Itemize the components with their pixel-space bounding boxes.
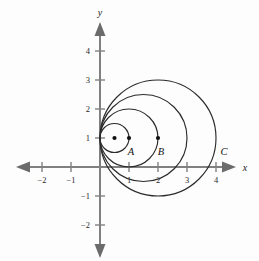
x-tick-label--1: −1 bbox=[66, 175, 75, 185]
point-B bbox=[156, 136, 160, 140]
x-tick-label-4: 4 bbox=[214, 175, 219, 185]
y-tick-labels: 4 3 2 1 −1 −2 bbox=[81, 46, 91, 230]
axes-group bbox=[16, 22, 236, 258]
point-A bbox=[127, 136, 131, 140]
circles-diagram-svg: −2 −1 1 2 3 4 4 3 2 1 −1 −2 x y bbox=[0, 0, 259, 261]
x-tick-labels: −2 −1 1 2 3 4 bbox=[37, 175, 218, 185]
y-axis-arrow-up bbox=[95, 22, 106, 36]
label-B: B bbox=[158, 146, 165, 157]
x-axis-arrow-right bbox=[222, 162, 236, 173]
label-C: C bbox=[220, 146, 228, 157]
x-tick-label--2: −2 bbox=[37, 175, 46, 185]
label-A: A bbox=[127, 146, 135, 157]
y-axis-arrow-down bbox=[95, 244, 106, 258]
y-axis-label: y bbox=[97, 7, 103, 18]
y-tick-label--1: −1 bbox=[81, 191, 90, 201]
x-axis-label: x bbox=[242, 162, 248, 173]
y-tick-label-2: 2 bbox=[86, 104, 90, 114]
y-tick-label-3: 3 bbox=[86, 75, 90, 85]
center-dot-small bbox=[112, 136, 116, 140]
y-tick-label-1: 1 bbox=[86, 133, 90, 143]
x-axis-arrow-left bbox=[16, 162, 30, 173]
y-tick-label-4: 4 bbox=[86, 46, 91, 56]
x-tick-label-3: 3 bbox=[185, 175, 189, 185]
coordinate-plane-figure: −2 −1 1 2 3 4 4 3 2 1 −1 −2 x y bbox=[0, 0, 259, 261]
y-tick-label--2: −2 bbox=[81, 220, 90, 230]
